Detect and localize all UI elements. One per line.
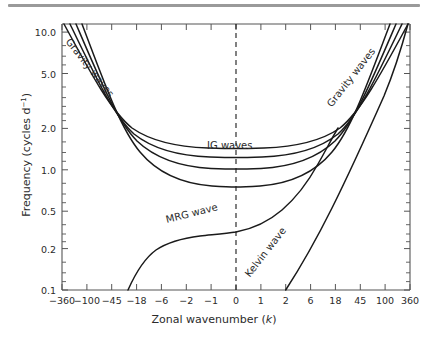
y-tick-label: 0.1 [14,285,56,296]
annotation-ig-waves: IG waves [207,140,252,151]
x-tick-label: −2 [179,295,193,306]
x-tick-label: −45 [102,295,122,306]
x-axis-title-text: Zonal wavenumber (k) [152,313,277,326]
x-tick-label: 0 [233,295,239,306]
x-tick-label: 18 [329,295,341,306]
x-tick-label: −1 [204,295,218,306]
y-axis-exponent: −1 [19,97,27,107]
x-tick-label: 2 [283,295,289,306]
y-axis-title-text: Frequency (cycles d−1) [20,93,33,217]
x-tick-label: −100 [74,295,100,306]
y-tick-label: 0.2 [14,243,56,254]
x-tick-label: −18 [127,295,147,306]
x-tick-label: −360 [49,295,75,306]
kelvin-wave-curve [286,24,408,290]
x-tick-label: 45 [354,295,366,306]
y-tick-label: 10.0 [14,27,56,38]
x-tick-label: −6 [154,295,168,306]
x-tick-label: 360 [401,295,419,306]
x-tick-label: 100 [376,295,394,306]
mrg-wave-curve [128,128,338,290]
dispersion-diagram-figure: −360 −100 −45 −18 −6 −2 −1 0 1 2 6 18 45… [0,0,428,338]
x-tick-label: 6 [308,295,314,306]
x-axis-title: Zonal wavenumber (k) [0,313,428,326]
x-axis-symbol: k [266,313,272,326]
y-axis-title: Frequency (cycles d−1) [19,67,33,243]
x-tick-label: 1 [258,295,264,306]
